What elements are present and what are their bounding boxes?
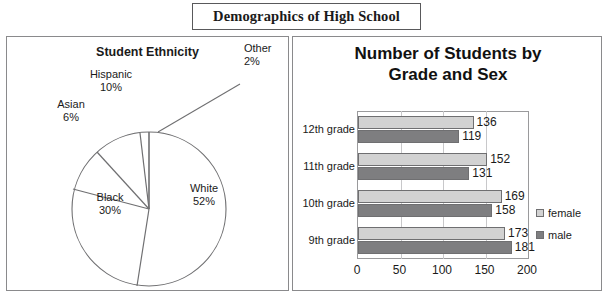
screenshot-root: Demographics of High School Student Ethn… <box>0 0 608 299</box>
legend-swatch-female <box>536 209 544 217</box>
bar-chart-legend: femalemale <box>536 207 581 251</box>
bar-chart-title: Number of Students by Grade and Sex <box>305 43 591 85</box>
pie-chart-graphic <box>7 37 290 290</box>
pie-slice-label-hispanic: Hispanic 10% <box>76 68 146 94</box>
x-tick-label: 0 <box>354 263 361 277</box>
x-tick-label: 150 <box>474 263 494 277</box>
bar-female-9th-grade <box>358 227 505 240</box>
pie-slice-label-other: Other 2% <box>244 42 272 68</box>
bar-female-11th-grade <box>358 153 487 166</box>
bar-female-10th-grade <box>358 190 502 203</box>
pie-leader-line-other <box>158 84 240 132</box>
page-title-box: Demographics of High School <box>192 3 421 30</box>
legend-item-male[interactable]: male <box>536 229 581 241</box>
bar-chart-panel: Number of Students by Grade and Sex 12th… <box>292 36 602 291</box>
bar-value-label: 181 <box>515 240 535 254</box>
bar-chart-value-axis: 050100150200 <box>357 263 529 279</box>
bar-value-label: 152 <box>490 152 510 166</box>
pie-slice-label-asian: Asian 6% <box>42 98 100 124</box>
bar-value-label: 158 <box>495 203 515 217</box>
legend-swatch-male <box>536 231 544 239</box>
legend-item-female[interactable]: female <box>536 207 581 219</box>
x-tick-label: 200 <box>517 263 537 277</box>
x-tick-label: 100 <box>432 263 452 277</box>
bar-chart-category-axis: 12th grade11th grade10th grade9th grade <box>293 111 355 259</box>
bar-male-10th-grade <box>358 204 492 217</box>
bar-value-label: 173 <box>508 226 528 240</box>
bar-value-label: 131 <box>472 166 492 180</box>
legend-label: female <box>548 207 581 219</box>
page-title: Demographics of High School <box>213 8 400 25</box>
pie-slice-label-black: Black 30% <box>79 191 141 217</box>
x-tick-label: 50 <box>393 263 406 277</box>
category-label-9th-grade: 9th grade <box>295 234 355 246</box>
bar-male-9th-grade <box>358 241 512 254</box>
bar-value-label: 119 <box>462 129 481 143</box>
bar-chart-plot-area: 136119152131169158173181 <box>357 111 529 259</box>
pie-chart-panel: Student Ethnicity Other 2% Hispanic 10% <box>6 36 289 291</box>
bar-male-12th-grade <box>358 130 459 143</box>
bar-value-label: 169 <box>505 189 525 203</box>
category-label-12th-grade: 12th grade <box>295 123 355 135</box>
bar-value-label: 136 <box>477 115 497 129</box>
bar-male-11th-grade <box>358 167 469 180</box>
category-label-10th-grade: 10th grade <box>295 197 355 209</box>
legend-label: male <box>548 229 572 241</box>
pie-slice-label-white: White 52% <box>173 182 235 208</box>
category-label-11th-grade: 11th grade <box>295 160 355 172</box>
bar-female-12th-grade <box>358 116 474 129</box>
